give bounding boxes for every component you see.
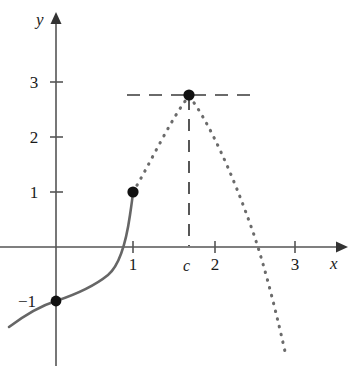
c-label: c bbox=[183, 258, 190, 274]
x-axis-arrowhead bbox=[336, 242, 348, 253]
x-tick-label-3: 3 bbox=[287, 256, 303, 273]
point-jump bbox=[127, 186, 138, 197]
point-left-endpoint bbox=[51, 296, 62, 307]
graph-figure: y x 3 2 1 −1 1 2 3 c bbox=[0, 0, 355, 372]
y-tick-label-negative-1: −1 bbox=[12, 293, 42, 310]
y-tick-label-2: 2 bbox=[26, 129, 42, 146]
x-axis-label: x bbox=[330, 255, 338, 272]
y-axis-label: y bbox=[36, 11, 44, 28]
dotted-parabola bbox=[133, 96, 286, 356]
y-tick-label-3: 3 bbox=[26, 74, 42, 91]
x-tick-label-1: 1 bbox=[125, 256, 141, 273]
axes-group bbox=[0, 12, 348, 366]
point-maximum bbox=[183, 89, 194, 100]
y-tick-label-1: 1 bbox=[26, 184, 42, 201]
graph-canvas bbox=[0, 0, 355, 372]
x-tick-label-2: 2 bbox=[207, 256, 223, 273]
y-axis-arrowhead bbox=[51, 12, 62, 24]
